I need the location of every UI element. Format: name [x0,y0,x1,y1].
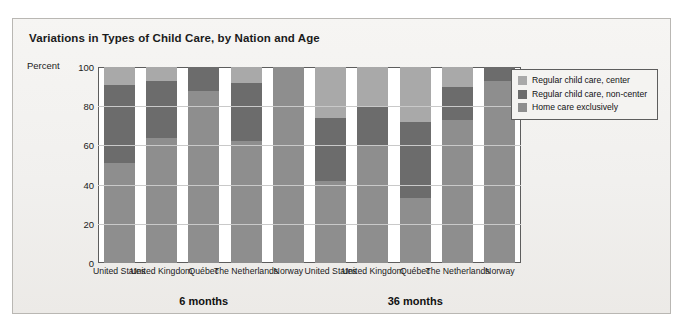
bar-stack [188,67,219,263]
bar-segment [188,91,219,263]
bar-stack [357,67,388,263]
bar-stack [400,67,431,263]
bar-segment [146,67,177,81]
bar-segment [357,67,388,106]
legend-item: Home care exclusively [518,102,651,113]
legend-label: Regular child care, non-center [532,89,647,100]
x-axis-group-labels: 6 months36 months [98,295,521,313]
bar-segment [315,181,346,263]
bar-segment [442,87,473,120]
bar-segment [231,141,262,263]
x-axis-labels: United StatesUnited KingdomQuébecThe Net… [98,266,521,296]
bar-segment [188,67,219,91]
chart-title: Variations in Types of Child Care, by Na… [29,32,320,44]
bar-segment [231,67,262,83]
y-axis-tick-label: 100 [60,62,94,73]
gridline [98,145,521,146]
bar-stack [442,67,473,263]
plot-area [98,67,521,263]
bars-layer [98,67,521,263]
gridline [98,106,521,107]
bar-segment [400,198,431,263]
bar-segment [357,106,388,145]
bar-segment [400,122,431,198]
bar-stack [231,67,262,263]
legend-item: Regular child care, center [518,75,651,86]
bar-segment [442,67,473,87]
group-label: 36 months [315,295,515,307]
bar-segment [231,83,262,142]
legend-item: Regular child care, non-center [518,89,651,100]
legend-swatch-icon [518,76,527,85]
legend-label: Home care exclusively [532,102,618,113]
legend-swatch-icon [518,103,527,112]
y-axis-title: Percent [27,60,60,71]
y-axis-ticks: 020406080100 [58,67,94,263]
bar-segment [315,67,346,118]
bar-segment [104,163,135,263]
bar-segment [273,67,304,263]
bar-segment [442,120,473,263]
legend-label: Regular child care, center [532,75,630,86]
bar-segment [146,138,177,263]
legend-swatch-icon [518,90,527,99]
bar-segment [315,118,346,181]
bar-segment [104,67,135,85]
x-axis-label: Norway [467,266,533,277]
bar-segment [400,67,431,122]
y-axis-tick-label: 40 [60,179,94,190]
chart-legend: Regular child care, centerRegular child … [511,69,658,120]
bar-segment [146,81,177,138]
y-axis-tick-label: 80 [60,101,94,112]
bar-stack [104,67,135,263]
y-axis-tick-label: 60 [60,140,94,151]
chart-figure: Variations in Types of Child Care, by Na… [12,18,671,314]
group-label: 6 months [104,295,304,307]
bar-stack [146,67,177,263]
gridline [98,224,521,225]
bar-stack [315,67,346,263]
y-axis-tick-label: 20 [60,218,94,229]
bar-segment [104,85,135,163]
bar-stack [273,67,304,263]
bar-segment [357,145,388,263]
gridline [98,185,521,186]
